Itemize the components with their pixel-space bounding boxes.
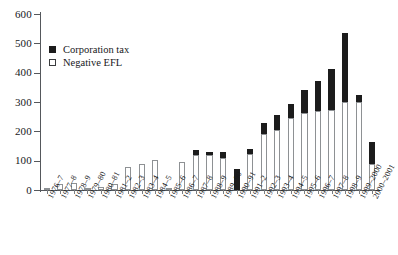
- bar-group: [328, 69, 334, 190]
- bar-segment-corporation-tax: [369, 142, 375, 164]
- legend-swatch-filled-square-icon: [49, 46, 56, 53]
- y-axis-label-wrap: 300: [0, 97, 32, 108]
- bar-series-container: [40, 14, 379, 190]
- y-axis-tick: [34, 190, 40, 191]
- legend-label: Negative EFL: [63, 56, 122, 69]
- y-axis-tick-label: 600: [15, 9, 32, 20]
- bar-segment-corporation-tax: [342, 33, 348, 102]
- bar-segment-corporation-tax: [315, 81, 321, 112]
- y-axis-label-wrap: 600: [0, 9, 32, 20]
- bar-segment-corporation-tax: [328, 69, 334, 110]
- legend-item-corporation-tax: Corporation tax: [49, 43, 129, 56]
- y-axis-label-wrap: 100: [0, 155, 32, 166]
- bar-segment-corporation-tax: [301, 90, 307, 113]
- legend: Corporation tax Negative EFL: [49, 43, 129, 69]
- y-axis-tick-label: 0: [26, 185, 32, 196]
- y-axis-tick-label: 500: [15, 38, 32, 49]
- y-axis-tick-label: 400: [15, 67, 32, 78]
- chart-root: 0100200300400500600 1976–71977–81978–919…: [0, 0, 398, 255]
- y-axis-tick-label: 300: [15, 97, 32, 108]
- y-axis-label-wrap: 500: [0, 38, 32, 49]
- legend-label: Corporation tax: [63, 43, 129, 56]
- bar-segment-corporation-tax: [261, 123, 267, 135]
- legend-swatch-open-square-icon: [49, 59, 56, 66]
- y-axis-label-wrap: 0: [0, 185, 32, 196]
- plot-area: [40, 14, 379, 190]
- bar-segment-corporation-tax: [274, 115, 280, 130]
- y-axis-tick-label: 200: [15, 126, 32, 137]
- y-axis-label-wrap: 200: [0, 126, 32, 137]
- bar-group: [342, 33, 348, 190]
- bar-segment-corporation-tax: [288, 104, 294, 118]
- legend-item-negative-efl: Negative EFL: [49, 56, 129, 69]
- y-axis-tick-label: 100: [15, 155, 32, 166]
- bar-segment-corporation-tax: [356, 95, 362, 102]
- y-axis-label-wrap: 400: [0, 67, 32, 78]
